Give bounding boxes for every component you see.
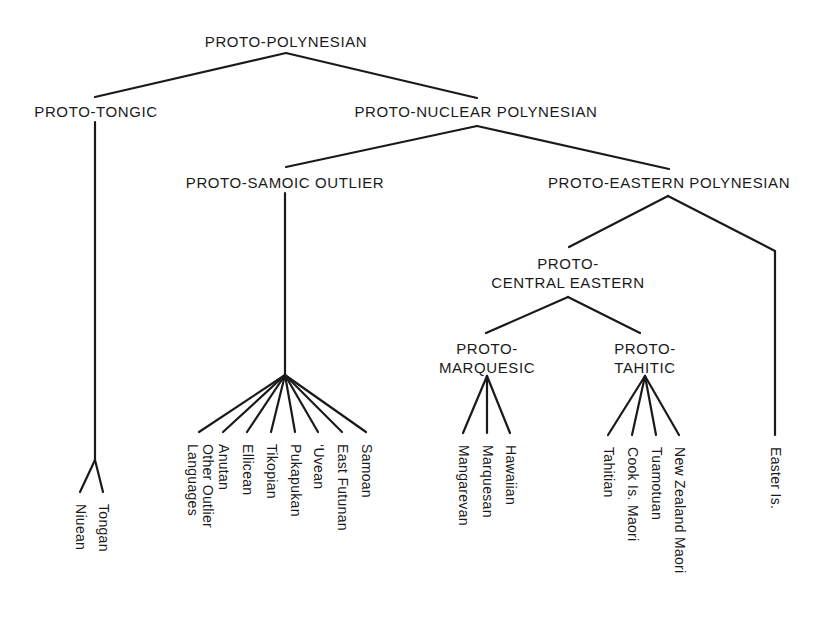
leaf-language-label: Tuamotuan bbox=[649, 447, 664, 520]
node-proto-tahitic: PROTO- TAHITIC bbox=[614, 339, 676, 377]
leaf-language-label: Tikopian bbox=[264, 444, 279, 499]
leaf-language-text: Other Outlier bbox=[200, 444, 215, 528]
node-proto-central-eastern: PROTO- CENTRAL EASTERN bbox=[491, 254, 644, 292]
node-proto-tongic: PROTO-TONGIC bbox=[34, 102, 157, 121]
leaf-language-text: Easter Is. bbox=[768, 447, 783, 509]
tree-edge bbox=[486, 297, 568, 333]
leaf-language-text: Tongan bbox=[96, 504, 111, 552]
leaf-language-label: Tongan bbox=[96, 504, 111, 552]
node-proto-eastern-polynesian: PROTO-EASTERN POLYNESIAN bbox=[548, 173, 790, 192]
leaf-language-label: Anutan bbox=[216, 444, 231, 490]
node-proto-tahitic-line2: TAHITIC bbox=[614, 358, 676, 377]
tree-edge bbox=[668, 196, 775, 251]
tree-edge bbox=[285, 375, 366, 432]
node-proto-polynesian: PROTO-POLYNESIAN bbox=[205, 32, 367, 51]
leaf-language-label: New Zealand Maori bbox=[672, 447, 687, 574]
leaf-language-text: Samoan bbox=[359, 444, 374, 498]
leaf-language-label: Cook Is. Maori bbox=[625, 447, 640, 541]
tree-lines bbox=[0, 0, 833, 620]
leaf-language-text: Pukapukan bbox=[288, 444, 303, 517]
tree-edge bbox=[487, 376, 510, 433]
tree-edge bbox=[95, 460, 103, 492]
leaf-language-text: Hawaiian bbox=[503, 445, 518, 505]
tree-edge bbox=[569, 196, 668, 247]
tree-edge bbox=[95, 53, 286, 97]
leaf-language-text: Ellicean bbox=[240, 444, 255, 495]
node-proto-central-eastern-line2: CENTRAL EASTERN bbox=[491, 273, 644, 292]
node-proto-nuclear-polynesian: PROTO-NUCLEAR POLYNESIAN bbox=[354, 102, 597, 121]
leaf-language-text: Cook Is. Maori bbox=[625, 447, 640, 541]
leaf-language-label: Niuean bbox=[73, 504, 88, 550]
leaf-language-text: Tahitian bbox=[601, 447, 616, 498]
leaf-language-text: Languages bbox=[185, 444, 200, 528]
node-proto-central-eastern-line1: PROTO- bbox=[491, 254, 644, 273]
leaf-language-text: Mangarevan bbox=[456, 445, 471, 526]
leaf-language-label: Other OutlierLanguages bbox=[185, 444, 215, 528]
node-proto-marquesic-line2: MARQUESIC bbox=[439, 358, 535, 377]
leaf-language-text: Marquesan bbox=[480, 445, 495, 518]
tree-edge bbox=[286, 53, 477, 98]
tree-edge bbox=[463, 376, 487, 433]
tree-edge bbox=[568, 297, 640, 333]
leaf-language-text: Tuamotuan bbox=[649, 447, 664, 520]
leaf-language-label: Hawaiian bbox=[503, 445, 518, 505]
leaf-language-text: East Futunan bbox=[335, 444, 350, 531]
leaf-language-text: ‘Uvean bbox=[311, 444, 326, 489]
node-proto-marquesic: PROTO- MARQUESIC bbox=[439, 339, 535, 377]
leaf-language-label: Mangarevan bbox=[456, 445, 471, 526]
leaf-language-label: Easter Is. bbox=[768, 447, 783, 509]
node-proto-tahitic-line1: PROTO- bbox=[614, 339, 676, 358]
leaf-language-label: Samoan bbox=[359, 444, 374, 498]
leaf-language-label: Ellicean bbox=[240, 444, 255, 495]
node-proto-marquesic-line1: PROTO- bbox=[439, 339, 535, 358]
leaf-language-text: New Zealand Maori bbox=[672, 447, 687, 574]
leaf-language-label: East Futunan bbox=[335, 444, 350, 531]
leaf-language-text: Niuean bbox=[73, 504, 88, 550]
tree-edge bbox=[80, 460, 95, 492]
leaf-language-label: Marquesan bbox=[480, 445, 495, 518]
leaf-language-label: ‘Uvean bbox=[311, 444, 326, 489]
leaf-language-text: Anutan bbox=[216, 444, 231, 490]
leaf-language-label: Tahitian bbox=[601, 447, 616, 498]
tree-edge bbox=[477, 126, 669, 169]
leaf-language-text: Tikopian bbox=[264, 444, 279, 499]
node-proto-samoic-outlier: PROTO-SAMOIC OUTLIER bbox=[186, 173, 384, 192]
leaf-language-label: Pukapukan bbox=[288, 444, 303, 517]
tree-edge bbox=[286, 126, 477, 167]
